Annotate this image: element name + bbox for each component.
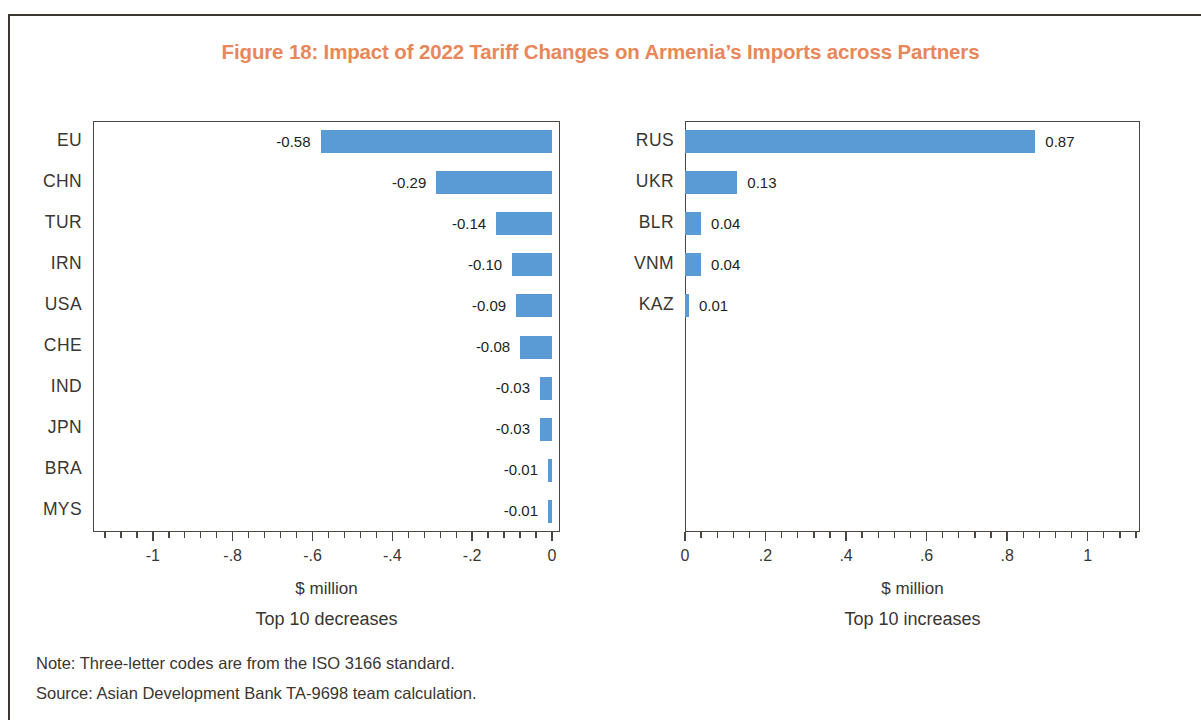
x-axis-minor-tick	[958, 532, 959, 538]
x-axis-minor-tick	[781, 532, 782, 538]
x-axis-minor-tick	[894, 532, 895, 538]
x-axis-minor-tick	[974, 532, 975, 538]
x-axis-minor-tick	[861, 532, 862, 538]
x-axis-major-tick	[765, 532, 766, 541]
x-axis-major-tick	[1087, 532, 1088, 541]
x-axis-minor-tick	[878, 532, 879, 538]
x-axis-title: $ million	[685, 580, 1140, 597]
x-axis-minor-tick	[1103, 532, 1104, 538]
x-axis-tick-label: 1	[1048, 548, 1128, 564]
x-axis-minor-tick	[1039, 532, 1040, 538]
x-axis-minor-tick	[829, 532, 830, 538]
x-axis-minor-tick	[1119, 532, 1120, 538]
bar-value-label: 0.87	[1045, 134, 1074, 149]
bar-value-label: 0.04	[711, 257, 740, 272]
x-axis-major-tick	[1006, 532, 1007, 541]
category-label-vnm: VNM	[0, 255, 674, 273]
category-label-blr: BLR	[0, 214, 674, 232]
bar	[685, 130, 1035, 153]
category-label-rus: RUS	[0, 132, 674, 150]
x-axis-minor-tick	[813, 532, 814, 538]
x-axis-major-tick	[926, 532, 927, 541]
figure-note: Note: Three-letter codes are from the IS…	[36, 655, 455, 672]
x-axis-minor-tick	[700, 532, 701, 538]
category-label-ukr: UKR	[0, 173, 674, 191]
x-axis-minor-tick	[1071, 532, 1072, 538]
x-axis-tick-label: .4	[806, 548, 886, 564]
bar	[685, 171, 737, 194]
bar-value-label: 0.13	[747, 175, 776, 190]
x-axis-tick-label: .8	[967, 548, 1047, 564]
bar	[685, 294, 689, 317]
x-axis-minor-tick	[749, 532, 750, 538]
bar	[685, 212, 701, 235]
bar	[685, 253, 701, 276]
x-axis-minor-tick	[942, 532, 943, 538]
x-axis-tick-label: .6	[887, 548, 967, 564]
x-axis-tick-label: 0	[645, 548, 725, 564]
figure-page: Figure 18: Impact of 2022 Tariff Changes…	[0, 0, 1201, 720]
x-axis-minor-tick	[1135, 532, 1136, 538]
x-axis-minor-tick	[1055, 532, 1056, 538]
x-axis-minor-tick	[910, 532, 911, 538]
x-axis-minor-tick	[797, 532, 798, 538]
panel-top-10-increases: 0.87RUS0.13UKR0.04BLR0.04VNM0.01KAZ0.2.4…	[0, 0, 1201, 720]
bar-value-label: 0.01	[699, 298, 728, 313]
x-axis-tick-label: .2	[726, 548, 806, 564]
x-axis-minor-tick	[733, 532, 734, 538]
panel-caption: Top 10 increases	[685, 610, 1140, 628]
x-axis-minor-tick	[990, 532, 991, 538]
figure-source: Source: Asian Development Bank TA-9698 t…	[36, 685, 477, 702]
x-axis-minor-tick	[1023, 532, 1024, 538]
x-axis-major-tick	[845, 532, 846, 541]
x-axis-major-tick	[684, 532, 685, 541]
category-label-kaz: KAZ	[0, 296, 674, 314]
x-axis-minor-tick	[717, 532, 718, 538]
bar-value-label: 0.04	[711, 216, 740, 231]
